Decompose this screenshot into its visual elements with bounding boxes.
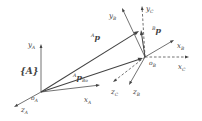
axis-x-C-label: xC [178,63,186,72]
axis-x-C-arrowhead-icon [185,56,189,59]
axis-z-C-line [115,57,145,81]
vector-p-in-A [41,31,139,92]
vector-p-in-B-label: Bp [151,25,162,35]
axis-z-C-label-sub: C [115,92,119,97]
axis-z-B [129,57,145,85]
origin-A-label: oA [31,94,38,103]
axis-x-A-label-sub: A [87,100,91,105]
axis-y-B-arrowhead-icon [122,8,125,12]
axis-y-B-label-sub: B [112,16,117,21]
origin-B-label-sub: B [152,63,157,68]
axis-y-C-label: yC [145,5,154,14]
figure-canvas: yAxAzAxByBzBxCyCzCApBpApBooAoB{A} [0,0,202,121]
vector-p-in-B-arrowhead-icon [140,30,144,35]
axis-y-A [40,44,43,92]
axis-x-A [41,84,100,92]
axis-x-B-label-sub: B [180,46,185,51]
coordinate-frames-figure: yAxAzAxByBzBxCyCzCApBpApBooAoB{A} [0,0,202,121]
vector-p-B-origin [41,58,143,92]
axis-z-B-label: zB [132,88,141,97]
frame-A-label: {A} [20,66,39,76]
axis-z-A-label: zA [20,106,28,115]
vector-p-in-B-label-main: p [156,25,162,35]
axis-y-B-label: yB [108,12,117,21]
axis-y-C-label-sub: C [150,9,154,14]
axis-z-B-line [130,57,145,83]
vector-p-B-origin-label-sub: Bo [81,78,88,83]
axis-z-B-label-sub: B [136,92,141,97]
axis-z-C [113,57,145,82]
vector-p-in-A-label: Ap [90,32,100,42]
vector-p-in-A-line [41,33,136,92]
axis-x-B-arrowhead-icon [170,40,174,43]
axis-x-C [145,56,189,59]
vector-p-B-origin-line [41,59,140,92]
axis-x-A-label: xA [84,96,91,105]
origin-A-label-sub: A [34,98,38,103]
axis-y-A-label: yA [27,41,35,50]
axis-y-A-arrowhead-icon [40,44,43,48]
axis-y-A-label-sub: A [31,45,35,50]
axis-x-B-line [145,41,172,57]
axis-z-B-arrowhead-icon [129,81,132,85]
axis-x-A-arrowhead-icon [96,84,100,87]
axis-x-C-label-sub: C [182,67,186,72]
axis-z-A-arrowhead-icon [14,104,18,107]
axis-z-A-label-sub: A [24,110,28,115]
axis-x-B-label: xB [177,42,185,51]
axis-z-C-label: zC [110,88,119,97]
axis-x-B [145,40,174,57]
vector-p-in-A-label-main: p [94,32,100,42]
origin-B-label: oB [149,59,157,68]
axis-y-C-arrowhead-icon [141,6,144,10]
